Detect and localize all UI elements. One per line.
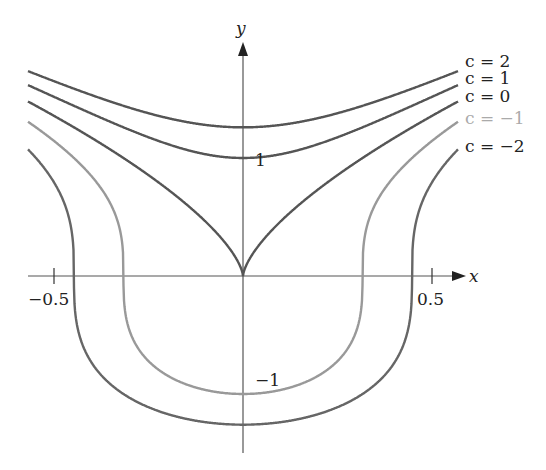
tick-label-x-pos: 0.5 (417, 289, 444, 309)
x-axis-label: x (469, 266, 479, 286)
curve-label-c0: c = 0 (465, 86, 510, 106)
curve-label-cm1: c = −1 (465, 108, 525, 128)
tick-label-y-pos: 1 (255, 150, 266, 170)
plot-canvas: y x −0.5 0.5 1 −1 c = 2 c = 1 c = 0 c = … (0, 0, 546, 470)
curve-label-c1: c = 1 (465, 68, 510, 88)
x-axis-arrow-icon (452, 271, 466, 281)
y-axis-label: y (235, 18, 246, 38)
y-axis-arrow-icon (238, 42, 248, 56)
tick-label-y-neg: −1 (255, 370, 280, 390)
curve-label-cm2: c = −2 (465, 136, 525, 156)
tick-label-x-neg: −0.5 (28, 289, 69, 309)
